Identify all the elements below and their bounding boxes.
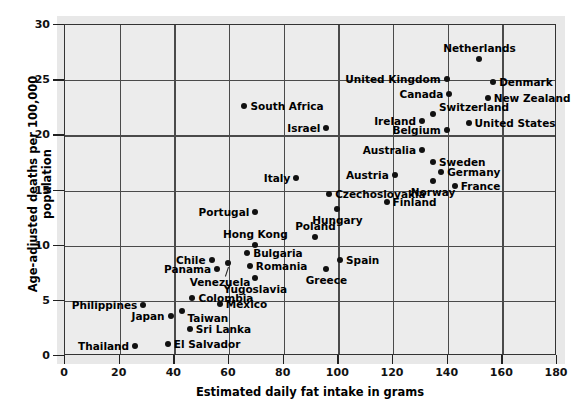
data-point xyxy=(326,191,332,197)
gridline-horizontal xyxy=(65,301,555,302)
data-point-label: Austria xyxy=(346,170,389,181)
data-point-label: Philippines xyxy=(72,300,137,311)
gridline-vertical xyxy=(174,25,175,354)
data-point xyxy=(132,343,138,349)
data-point-label: Netherlands xyxy=(443,43,516,54)
data-point xyxy=(490,79,496,85)
x-axis-tick xyxy=(501,355,502,364)
x-axis-tick-label: 180 xyxy=(545,366,568,379)
data-point xyxy=(476,56,482,62)
data-point xyxy=(241,103,247,109)
data-point xyxy=(247,263,253,269)
data-point-label: Panama xyxy=(164,264,211,275)
data-point xyxy=(252,275,258,281)
data-point xyxy=(293,175,299,181)
data-point-label: Germany xyxy=(447,167,500,178)
x-axis-tick-label: 20 xyxy=(111,366,126,379)
data-point xyxy=(337,257,343,263)
chart-figure: 020406080100120140160180051015202530 Est… xyxy=(0,0,577,411)
data-point xyxy=(312,234,318,240)
x-axis-tick xyxy=(64,355,65,364)
data-point xyxy=(168,313,174,319)
x-axis-tick xyxy=(173,355,174,364)
y-axis-tick xyxy=(53,190,64,191)
data-point xyxy=(392,172,398,178)
data-point xyxy=(485,95,491,101)
x-axis-tick-label: 120 xyxy=(381,366,404,379)
data-point-label: Belgium xyxy=(392,125,440,136)
data-point xyxy=(217,301,223,307)
data-point-label: Bulgaria xyxy=(253,248,303,259)
data-point-label: Finland xyxy=(393,196,437,207)
data-point-label: United Kingdom xyxy=(345,74,440,85)
data-point-label: Israel xyxy=(287,122,320,133)
data-point xyxy=(323,125,329,131)
data-point xyxy=(430,111,436,117)
gridline-horizontal xyxy=(65,80,555,81)
y-axis-tick xyxy=(53,134,64,135)
data-point xyxy=(430,159,436,165)
data-point xyxy=(252,209,258,215)
y-axis-tick-label: 30 xyxy=(22,18,50,31)
y-axis-tick xyxy=(53,300,64,301)
gridline-horizontal xyxy=(65,135,555,136)
gridline-vertical xyxy=(502,25,503,354)
data-point-label: United States xyxy=(475,118,556,129)
x-axis-tick xyxy=(392,355,393,364)
data-point xyxy=(430,178,436,184)
data-point xyxy=(187,326,193,332)
x-axis-tick xyxy=(283,355,284,364)
x-axis-tick-label: 0 xyxy=(60,366,68,379)
data-point-label: Canada xyxy=(399,88,443,99)
data-point xyxy=(452,183,458,189)
x-axis-tick-label: 140 xyxy=(435,366,458,379)
data-point-label: France xyxy=(461,181,501,192)
data-point xyxy=(446,91,452,97)
data-point xyxy=(244,250,250,256)
x-axis-tick-label: 80 xyxy=(275,366,290,379)
data-point xyxy=(444,76,450,82)
y-axis-tick xyxy=(53,79,64,80)
data-point xyxy=(140,302,146,308)
data-point xyxy=(419,147,425,153)
x-axis-tick-label: 100 xyxy=(326,366,349,379)
y-axis-title: Age-adjusted deaths per 100,000 populati… xyxy=(26,54,54,314)
data-point-label: Thailand xyxy=(78,341,129,352)
data-point-label: Japan xyxy=(132,311,165,322)
x-axis-tick xyxy=(447,355,448,364)
data-point-label: South Africa xyxy=(250,100,323,111)
x-axis-tick xyxy=(228,355,229,364)
data-point xyxy=(214,266,220,272)
x-axis-tick-label: 40 xyxy=(166,366,181,379)
data-point-label: Sri Lanka xyxy=(196,323,251,334)
data-point xyxy=(189,295,195,301)
x-axis-tick xyxy=(556,355,557,364)
data-point xyxy=(225,260,231,266)
data-point xyxy=(444,127,450,133)
data-point-label: El Salvador xyxy=(174,339,241,350)
x-axis-title: Estimated daily fat intake in grams xyxy=(64,385,556,399)
gridline-horizontal xyxy=(65,246,555,247)
y-axis-tick-label: 0 xyxy=(22,349,50,362)
data-point xyxy=(384,199,390,205)
data-point xyxy=(466,120,472,126)
data-point xyxy=(438,169,444,175)
data-point-label: Mexico xyxy=(226,299,267,310)
data-point-label: Greece xyxy=(306,275,347,286)
data-point-label: Australia xyxy=(363,145,416,156)
y-axis-tick xyxy=(53,355,64,356)
y-axis-tick xyxy=(53,245,64,246)
data-point-label: Spain xyxy=(346,255,379,266)
data-point-label: Denmark xyxy=(499,77,553,88)
x-axis-tick xyxy=(119,355,120,364)
x-axis-tick-label: 60 xyxy=(220,366,235,379)
data-point xyxy=(165,341,171,347)
data-point xyxy=(179,308,185,314)
data-point-label: Portugal xyxy=(199,206,250,217)
gridline-vertical xyxy=(284,25,285,354)
data-point-label: Romania xyxy=(256,260,308,271)
data-point-label: Italy xyxy=(264,173,290,184)
data-point-label: Hong Kong xyxy=(223,228,288,239)
y-axis-tick xyxy=(53,24,64,25)
data-point-label: Poland xyxy=(295,220,336,231)
